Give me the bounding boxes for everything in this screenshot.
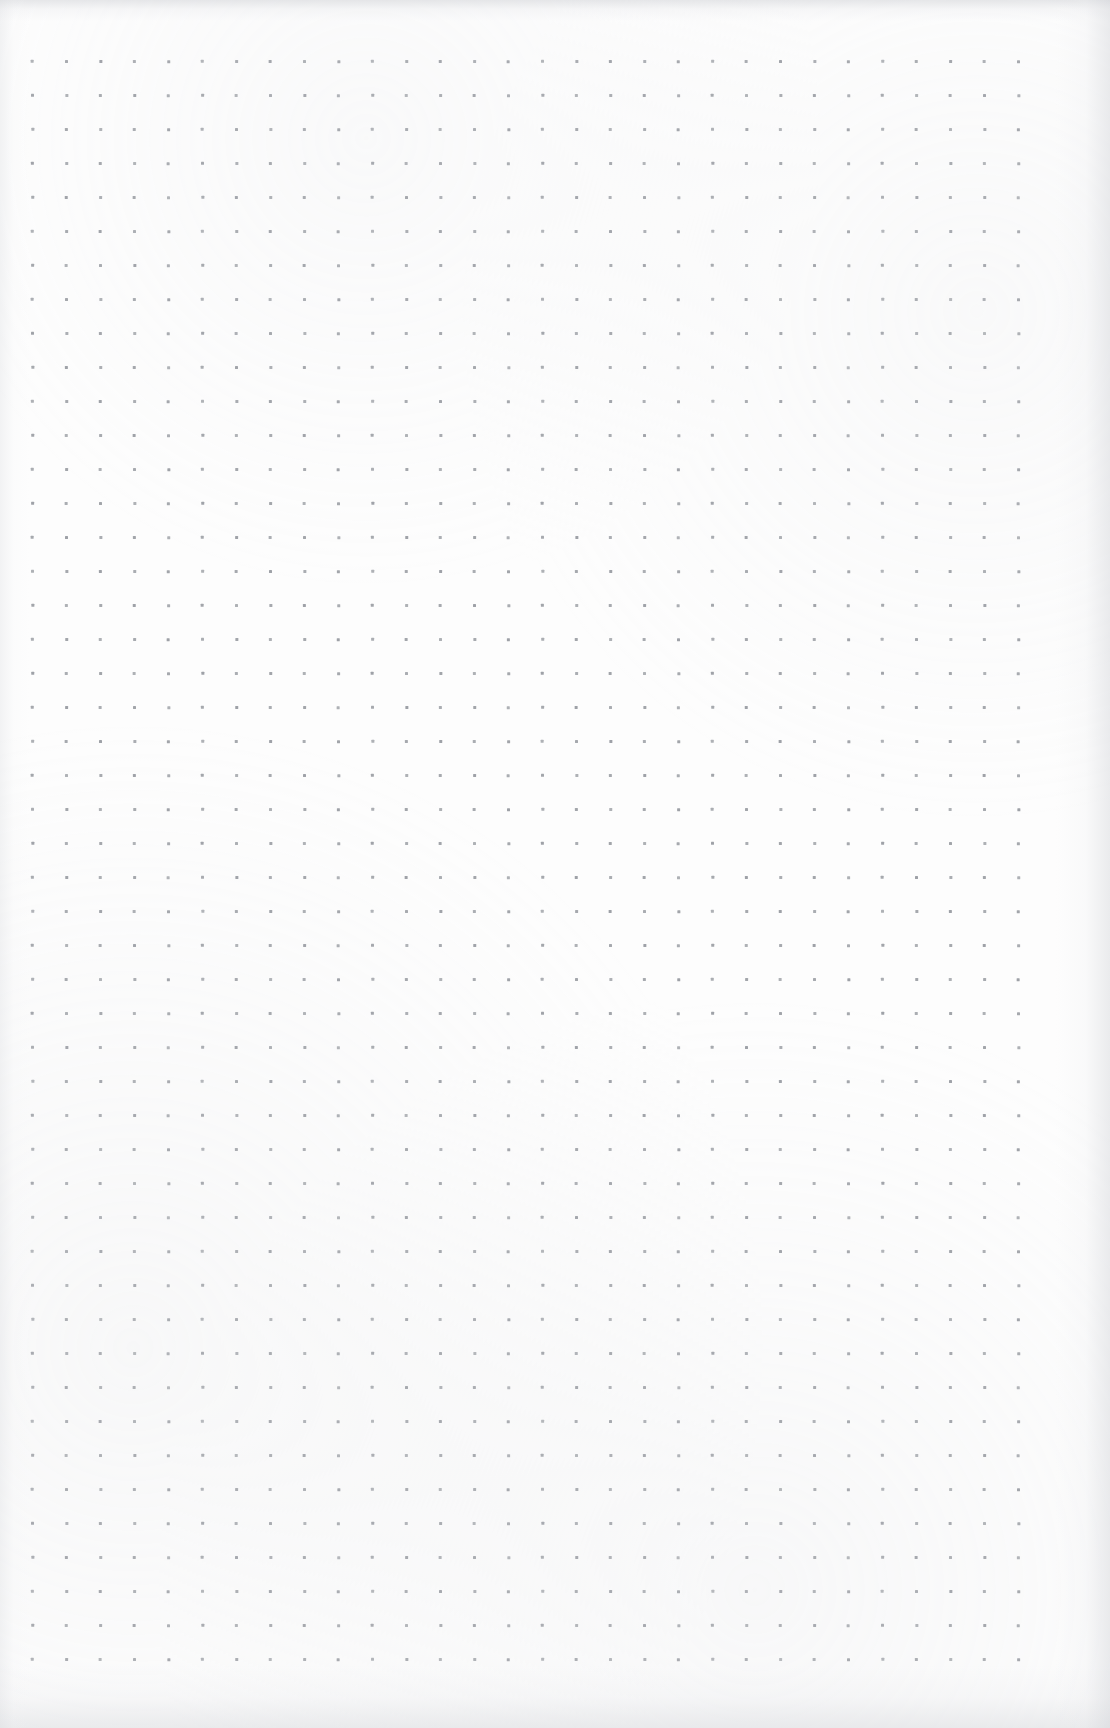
paper-background	[0, 0, 1110, 1728]
dot-grid-page	[0, 0, 1110, 1728]
